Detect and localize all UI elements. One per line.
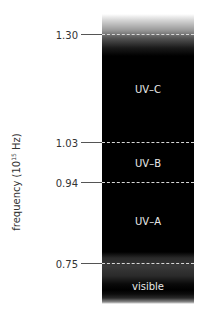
y-axis-label-exponent: 15: [10, 153, 17, 161]
boundary-line-1-03: [102, 142, 194, 143]
y-axis-label-text: frequency (10: [11, 161, 22, 231]
tick-1-30: [81, 34, 102, 35]
region-label-uva: UV–A: [102, 216, 194, 227]
tick-label-1-03: 1.03: [56, 138, 78, 149]
region-label-uvb: UV–B: [102, 158, 194, 169]
boundary-line-0-75: [102, 263, 194, 264]
y-axis-label: frequency (1015 Hz): [10, 133, 22, 230]
boundary-line-1-30: [102, 34, 194, 35]
boundary-line-0-94: [102, 182, 194, 183]
y-axis-label-unit: Hz): [11, 133, 22, 153]
tick-0-75: [81, 263, 102, 264]
tick-label-1-30: 1.30: [56, 30, 78, 41]
tick-1-03: [81, 142, 102, 143]
tick-label-0-75: 0.75: [56, 259, 78, 270]
region-label-uvc: UV–C: [102, 84, 194, 95]
tick-0-94: [81, 182, 102, 183]
tick-label-0-94: 0.94: [56, 178, 78, 189]
region-label-visible: visible: [102, 281, 194, 292]
